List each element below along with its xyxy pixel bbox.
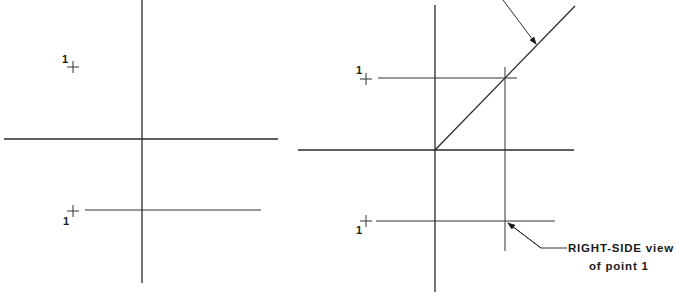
callout-line-1: RIGHT-SIDE view <box>568 242 674 254</box>
point-label: 1 <box>62 53 68 65</box>
point-label: 1 <box>356 64 362 76</box>
leader-line-right-side <box>508 223 567 248</box>
point-1-top-view: 1 <box>62 53 79 73</box>
leader-arrow-miter <box>500 0 536 44</box>
leader-arrow-icon <box>508 223 541 248</box>
point-label: 1 <box>356 224 362 236</box>
callout-line-2: of point 1 <box>589 260 649 272</box>
point-1-top-view: 1 <box>356 64 372 85</box>
point-1-front-view: 1 <box>356 215 372 236</box>
projection-diagram: 1 1 1 1 <box>0 0 677 293</box>
right-panel: 1 1 RIGHT-SIDE view of point 1 <box>298 0 674 292</box>
point-1-front-view: 1 <box>63 205 79 227</box>
point-label: 1 <box>63 215 69 227</box>
left-panel: 1 1 <box>4 0 278 283</box>
